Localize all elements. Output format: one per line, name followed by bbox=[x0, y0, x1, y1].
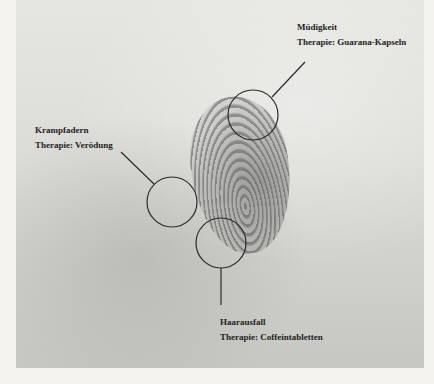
annotation-muedigkeit: Müdigkeit Therapie: Guarana-Kapseln bbox=[297, 20, 406, 50]
annotation-therapy: Therapie: Guarana-Kapseln bbox=[297, 35, 406, 50]
highlight-circle-krampfadern bbox=[147, 177, 197, 227]
leader-line-muedigkeit bbox=[272, 62, 305, 97]
annotation-title: Müdigkeit bbox=[297, 20, 406, 35]
highlight-circle-haarausfall bbox=[196, 218, 246, 268]
annotation-therapy: Therapie: Verödung bbox=[35, 138, 113, 153]
annotation-overlay bbox=[0, 0, 434, 384]
leader-line-krampfadern bbox=[121, 152, 154, 184]
annotation-title: Krampfadern bbox=[35, 123, 113, 138]
annotation-therapy: Therapie: Coffeintabletten bbox=[220, 330, 323, 345]
highlight-circle-muedigkeit bbox=[228, 90, 278, 140]
annotation-krampfadern: Krampfadern Therapie: Verödung bbox=[35, 123, 113, 153]
annotation-title: Haarausfall bbox=[220, 315, 323, 330]
annotation-haarausfall: Haarausfall Therapie: Coffeintabletten bbox=[220, 315, 323, 345]
